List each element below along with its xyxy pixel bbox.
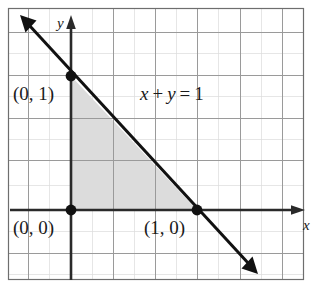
- equation-term-y: y: [167, 83, 175, 104]
- equation-operator-plus: +: [152, 83, 163, 104]
- equation-operator-equals: =: [180, 83, 191, 104]
- equation-term-x: x: [140, 83, 148, 104]
- point-label-0-1: (0, 1): [13, 84, 54, 103]
- x-axis-label: x: [303, 218, 310, 233]
- coordinate-plane-figure: (0, 1) (0, 0) (1, 0) x+y=1 y x: [0, 0, 320, 288]
- graph-canvas: [0, 0, 320, 288]
- point-origin: [66, 205, 77, 216]
- point-label-1-0: (1, 0): [144, 218, 185, 237]
- line-equation-label: x+y=1: [138, 84, 206, 103]
- equation-term-one: 1: [194, 83, 204, 104]
- y-axis-label: y: [57, 16, 64, 31]
- point-label-0-0: (0, 0): [13, 218, 54, 237]
- point-y-intercept: [66, 71, 77, 82]
- point-x-intercept: [192, 205, 203, 216]
